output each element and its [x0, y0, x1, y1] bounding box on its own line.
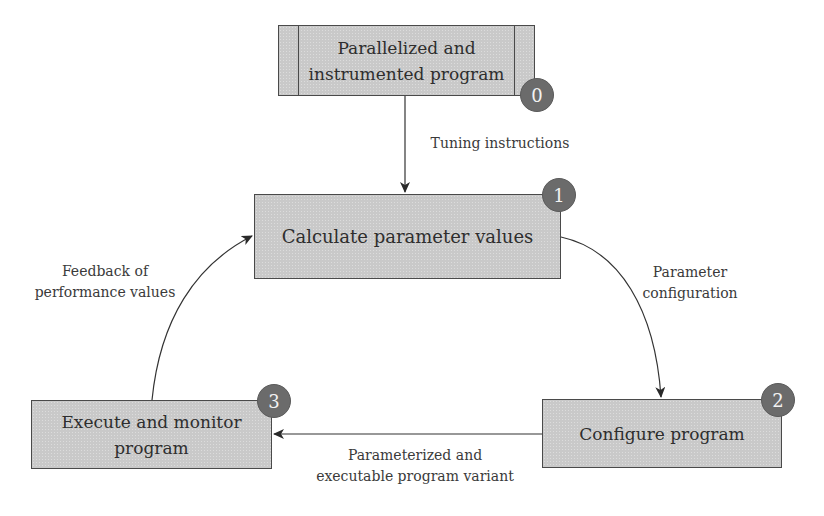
node-label: Calculate parameter values [282, 224, 534, 250]
edge-label-feedback: Feedback of performance values [30, 261, 180, 303]
step-badge-0: 0 [520, 78, 554, 112]
step-badge-2: 2 [761, 383, 795, 417]
node-calculate-parameter-values: Calculate parameter values [254, 194, 561, 279]
step-badge-1: 1 [542, 178, 576, 212]
edge-1-to-2-arrow [561, 237, 661, 397]
node-label: Configure program [579, 421, 744, 447]
edge-label-parameter-configuration: Parameter configuration [625, 262, 755, 304]
step-badge-3: 3 [257, 384, 291, 418]
node-label: Parallelized and instrumented program [309, 35, 505, 87]
node-side-bar-left [279, 26, 299, 95]
node-execute-and-monitor: Execute and monitor program [31, 400, 272, 469]
edge-label-program-variant: Parameterized and executable program var… [290, 445, 540, 487]
node-parallelized-program: Parallelized and instrumented program [278, 25, 535, 96]
edge-label-tuning-instructions: Tuning instructions [415, 133, 585, 154]
node-configure-program: Configure program [542, 399, 782, 468]
node-label: Execute and monitor program [61, 409, 241, 461]
